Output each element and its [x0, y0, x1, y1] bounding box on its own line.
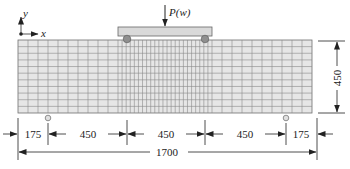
fe-mesh — [18, 40, 312, 113]
height-dimension: 450 — [318, 41, 345, 113]
load-roller-right — [201, 35, 209, 43]
dim-segment-1: 175 — [25, 128, 42, 140]
load-roller-left — [123, 35, 131, 43]
load-label: P(w) — [168, 6, 191, 19]
height-label: 450 — [331, 69, 343, 86]
support-roller-right — [283, 115, 289, 121]
loading-apparatus: P(w) — [118, 5, 212, 43]
beam-mesh-diagram: y x P(w) 450 175 450 — [0, 0, 350, 169]
support-roller-left — [45, 115, 51, 121]
loading-beam — [118, 27, 212, 36]
y-axis-label: y — [22, 7, 28, 19]
dim-segment-5: 175 — [293, 128, 310, 140]
dim-segment-2: 450 — [80, 128, 97, 140]
length-dimensions: 175 450 450 450 175 1700 — [3, 118, 333, 160]
dim-segment-4: 450 — [237, 128, 254, 140]
coordinate-axes: y x — [19, 7, 46, 39]
dim-total-length: 1700 — [156, 146, 179, 158]
dim-segment-3: 450 — [158, 128, 175, 140]
origin-dot — [19, 32, 23, 36]
x-axis-label: x — [40, 27, 46, 39]
